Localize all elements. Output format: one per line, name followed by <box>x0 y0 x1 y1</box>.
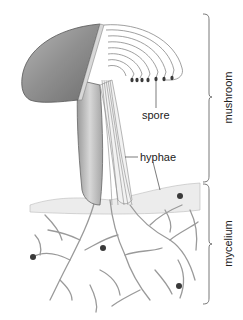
soil-surface <box>30 183 200 214</box>
brackets <box>203 14 212 304</box>
gill-spores <box>130 76 173 82</box>
cap-cross-section <box>104 25 183 80</box>
hyphae-label: hyphae <box>140 152 176 163</box>
mushroom-stem <box>77 80 132 205</box>
hyphae-soil-leader-line <box>153 162 160 190</box>
mushroom-illustration <box>0 0 243 320</box>
mushroom-diagram: spore hyphae mushroom mycelium <box>0 0 243 320</box>
mushroom-bracket <box>203 14 212 182</box>
leader-lines <box>125 81 160 190</box>
mycelium-label: mycelium <box>223 218 234 270</box>
mycelium-bracket <box>203 184 212 304</box>
mycelium-network <box>33 200 198 312</box>
mushroom-label: mushroom <box>223 70 234 126</box>
spore-label: spore <box>142 110 170 121</box>
